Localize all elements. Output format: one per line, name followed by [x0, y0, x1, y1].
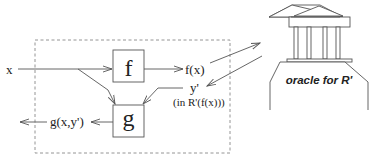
- function-f-box: f: [113, 50, 144, 82]
- input-x-label: x: [6, 62, 13, 77]
- oracle-temple-icon: [269, 5, 368, 110]
- fx-label: f(x): [185, 62, 205, 77]
- arrow-fx-to-oracle: [210, 43, 260, 63]
- oracle-label: oracle for R': [286, 74, 354, 86]
- arrow-x-to-g: [78, 69, 115, 104]
- output-label: g(x,y'): [50, 114, 84, 129]
- yprime-label: y': [190, 80, 199, 95]
- function-g-box: g: [113, 105, 144, 137]
- function-f-label: f: [125, 55, 133, 81]
- reduction-diagram: f g x f(x) y' (in R'(f(x))) g(x,y') o: [0, 0, 379, 161]
- function-g-label: g: [123, 105, 135, 131]
- yprime-note: (in R'(f(x))): [173, 96, 225, 109]
